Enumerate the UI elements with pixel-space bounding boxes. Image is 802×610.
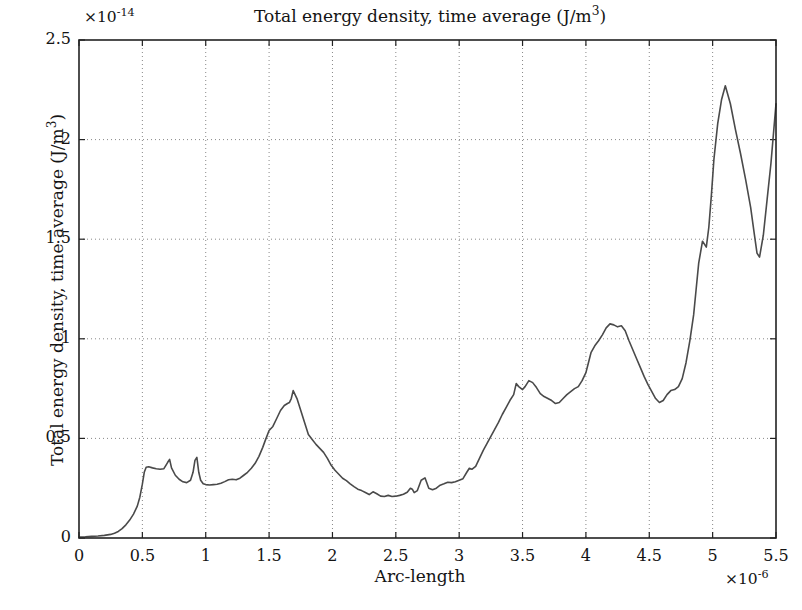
y-tick-label: 0 — [25, 527, 71, 546]
x-tick-label: 2 — [308, 546, 356, 565]
y-tick-label: 0.5 — [25, 427, 71, 446]
figure-container: Total energy density, time average (J/m3… — [0, 0, 802, 610]
x-tick-label: 4 — [562, 546, 610, 565]
y-tick-label: 2 — [25, 129, 71, 148]
plot-frame — [79, 40, 776, 538]
x-tick-label: 0.5 — [118, 546, 166, 565]
y-tick-label: 1.5 — [25, 228, 71, 247]
data-series-line — [79, 86, 776, 537]
x-tick-label: 1 — [182, 546, 230, 565]
x-tick-label: 3 — [435, 546, 483, 565]
chart-svg — [0, 0, 802, 610]
x-tick-label: 5 — [689, 546, 737, 565]
x-tick-label: 5.5 — [752, 546, 800, 565]
x-tick-label: 2.5 — [372, 546, 420, 565]
x-tick-label: 3.5 — [499, 546, 547, 565]
x-tick-label: 1.5 — [245, 546, 293, 565]
plot-area — [0, 0, 802, 610]
x-tick-label: 0 — [55, 546, 103, 565]
y-tick-label: 1 — [25, 328, 71, 347]
y-tick-label: 2.5 — [25, 29, 71, 48]
x-tick-label: 4.5 — [625, 546, 673, 565]
